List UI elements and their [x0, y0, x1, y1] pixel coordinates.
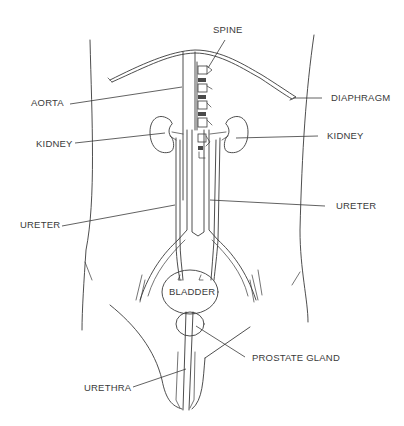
- prostate-gland: [176, 312, 204, 336]
- leader-lines: [62, 40, 325, 387]
- diaphragm: [108, 50, 296, 100]
- aorta: [183, 52, 195, 200]
- label-diaphragm: DIAPHRAGM: [331, 93, 390, 103]
- label-urethra: URETHRA: [84, 383, 131, 393]
- spine: [197, 62, 212, 158]
- label-kidney-left: KIDNEY: [36, 139, 73, 149]
- label-bladder: BLADDER: [169, 287, 215, 297]
- label-kidney-right: KIDNEY: [327, 131, 364, 141]
- label-ureter-right: URETER: [336, 201, 376, 211]
- label-prostate-gland: PROSTATE GLAND: [252, 353, 340, 363]
- label-aorta: AORTA: [31, 98, 64, 108]
- label-spine: SPINE: [213, 25, 243, 35]
- urinary-system-diagram: [0, 0, 404, 426]
- label-ureter-left: URETER: [20, 220, 60, 230]
- urethra: [110, 305, 250, 410]
- kidney-left: [150, 116, 183, 152]
